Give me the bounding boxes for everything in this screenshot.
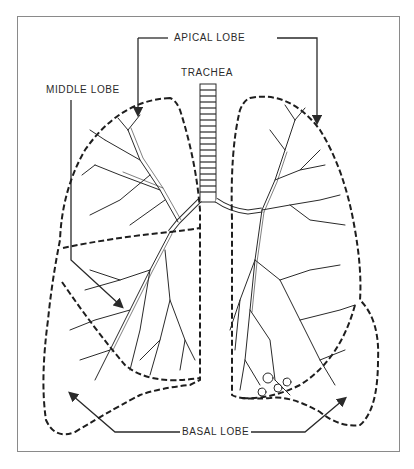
label-trachea: TRACHEA xyxy=(179,67,235,79)
label-apical-lobe: APICAL LOBE xyxy=(172,32,247,44)
label-middle-lobe: MIDDLE LOBE xyxy=(44,84,122,96)
trachea xyxy=(170,84,262,232)
label-basal-lobe: BASAL LOBE xyxy=(180,426,251,438)
